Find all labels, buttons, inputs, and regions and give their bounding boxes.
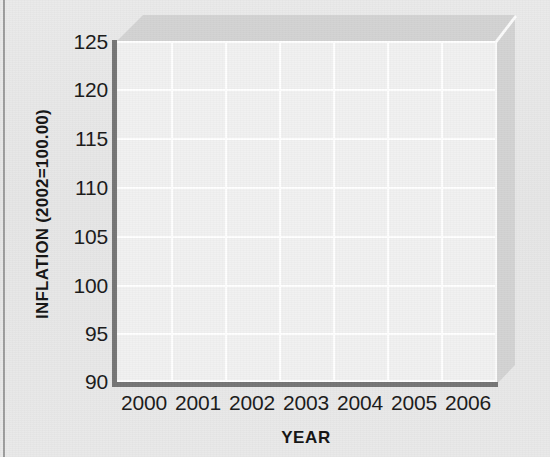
x-axis-line: [112, 382, 498, 387]
gridline-vertical: [387, 41, 389, 382]
gridline-horizontal: [117, 138, 495, 140]
x-tick-labels: 2000 2001 2002 2003 2004 2005 2006: [117, 392, 495, 422]
gridline-vertical: [225, 41, 227, 382]
right-wall-face: [495, 15, 515, 386]
x-tick-label: 2005: [387, 392, 441, 413]
gridline-horizontal: [117, 285, 495, 287]
y-tick-label: 115: [46, 128, 108, 149]
gridline-vertical: [441, 41, 443, 382]
gridline-horizontal: [117, 187, 495, 189]
gridline-vertical: [171, 41, 173, 382]
y-tick-label: 100: [46, 275, 108, 296]
gridline-horizontal: [117, 333, 495, 335]
y-axis-line: [112, 40, 117, 384]
y-tick-label: 105: [46, 226, 108, 247]
chart-figure: 125 120 115 110 105 100 95 90 2000 2001 …: [0, 0, 550, 457]
y-tick-label: 120: [46, 79, 108, 100]
x-axis-title: YEAR: [117, 428, 495, 448]
y-tick-label: 125: [46, 31, 108, 52]
y-tick-label: 95: [46, 323, 108, 344]
x-tick-label: 2004: [333, 392, 387, 413]
gridline-vertical: [279, 41, 281, 382]
y-tick-label: 90: [46, 371, 108, 392]
x-tick-label: 2001: [171, 392, 225, 413]
y-tick-label: 110: [46, 177, 108, 198]
ceiling-face: [117, 15, 515, 41]
gridline-horizontal: [117, 41, 495, 43]
x-tick-label: 2000: [117, 392, 171, 413]
plot-area: [117, 41, 495, 382]
gridline-horizontal: [117, 89, 495, 91]
gridline-horizontal: [117, 236, 495, 238]
x-tick-label: 2003: [279, 392, 333, 413]
x-tick-label: 2006: [441, 392, 495, 413]
gridline-vertical: [333, 41, 335, 382]
x-tick-label: 2002: [225, 392, 279, 413]
y-axis-title: INFLATION (2002=100.00): [33, 64, 53, 364]
